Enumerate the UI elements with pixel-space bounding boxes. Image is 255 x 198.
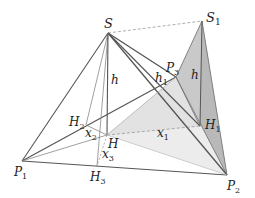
height-S-H xyxy=(107,33,108,135)
label-P1: P1 xyxy=(13,165,27,181)
label-h-main: h xyxy=(111,73,119,87)
pyramid-diagram: S S1 P3 h1 h h H2 x2 H x3 x1 H1 P1 H3 P2 xyxy=(0,0,255,198)
label-x2: x2 xyxy=(85,126,97,142)
dashed-S-S1 xyxy=(108,21,202,33)
edge-S-H2 xyxy=(86,33,108,125)
label-P3: P3 xyxy=(165,61,179,77)
label-S1: S1 xyxy=(206,10,221,27)
label-H2: H2 xyxy=(68,115,85,131)
label-h-S1: h xyxy=(191,68,199,82)
diagram-canvas: S S1 P3 h1 h h H2 x2 H x3 x1 H1 P1 H3 P2 xyxy=(0,0,255,198)
label-P2: P2 xyxy=(226,179,240,195)
label-H3: H3 xyxy=(89,170,106,186)
label-H: H xyxy=(107,137,119,151)
label-S: S xyxy=(104,16,113,31)
